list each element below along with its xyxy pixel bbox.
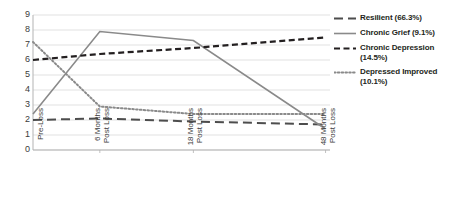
x-tick-label-line2: Post Loss xyxy=(328,108,337,156)
legend-item-0[interactable]: Resilient (66.3%) xyxy=(334,13,456,24)
legend-item-1[interactable]: Chronic Grief (9.1%) xyxy=(334,28,456,39)
legend-item-label: Depressed Improved(10.1%) xyxy=(360,67,437,87)
legend-item-label: Chronic Depression(14.5%) xyxy=(360,43,434,63)
x-tick-label: 6 MonthsPost Loss xyxy=(93,108,111,156)
legend-item-label: Chronic Grief (9.1%) xyxy=(360,28,435,38)
legend-label-line2: (14.5%) xyxy=(360,53,387,62)
legend-label-line1: Resilient (66.3%) xyxy=(360,13,422,22)
legend-item-label: Resilient (66.3%) xyxy=(360,13,422,23)
chart-container: 9876543210 Pre-Loss6 MonthsPost Loss18 M… xyxy=(0,0,456,206)
legend-line-swatch-icon xyxy=(334,43,356,54)
x-tick-label-line1: 6 Months xyxy=(93,108,102,156)
legend-label-line2: (10.1%) xyxy=(360,77,387,86)
x-tick-label: Pre-Loss xyxy=(36,108,45,156)
x-tick-label-line1: Pre-Loss xyxy=(36,108,45,156)
legend-line-swatch-icon xyxy=(334,28,356,39)
plot-area: 9876543210 Pre-Loss6 MonthsPost Loss18 M… xyxy=(0,0,340,206)
legend-line-swatch-icon xyxy=(334,67,356,78)
legend-item-3[interactable]: Depressed Improved(10.1%) xyxy=(334,67,456,87)
x-axis-tick-labels: Pre-Loss6 MonthsPost Loss18 MonthsPost L… xyxy=(0,0,340,206)
x-tick-label: 48 MonthsPost Loss xyxy=(319,108,337,156)
legend-label-line1: Depressed Improved xyxy=(360,67,437,76)
x-tick-label-line2: Post Loss xyxy=(195,108,204,156)
x-tick-label-line1: 48 Months xyxy=(319,108,328,156)
chart-legend: Resilient (66.3%)Chronic Grief (9.1%)Chr… xyxy=(334,13,456,91)
legend-line-swatch-icon xyxy=(334,13,356,24)
legend-label-line1: Chronic Depression xyxy=(360,43,434,52)
x-tick-label-line2: Post Loss xyxy=(102,108,111,156)
x-tick-label: 18 MonthsPost Loss xyxy=(186,108,204,156)
legend-label-line1: Chronic Grief (9.1%) xyxy=(360,28,435,37)
legend-item-2[interactable]: Chronic Depression(14.5%) xyxy=(334,43,456,63)
